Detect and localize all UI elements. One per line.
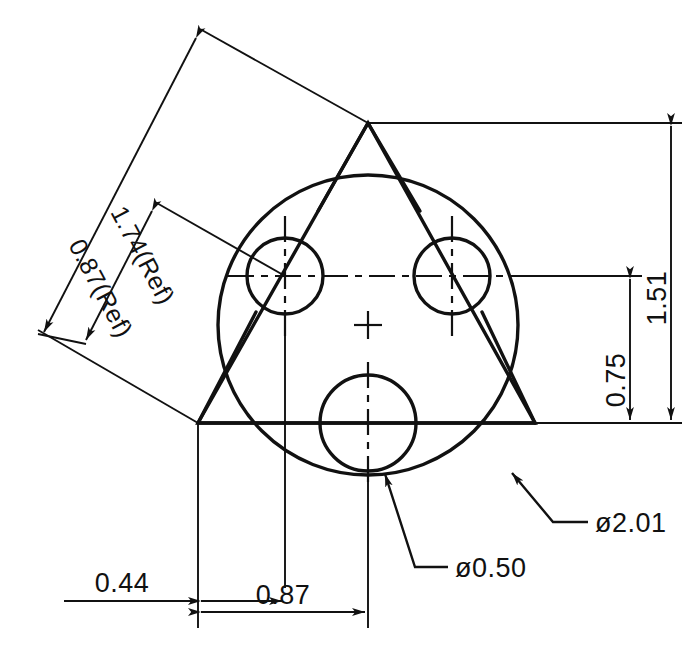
ext-line-ref-long-bottom — [38, 330, 198, 423]
ext-line-ref-short-bottom — [38, 334, 86, 344]
leader-line-hole-diameter — [385, 474, 448, 567]
dim-text-0-87: 0.87 — [256, 580, 311, 610]
triangle-side-top-left-upper — [318, 123, 368, 211]
dim-text-1-51: 1.51 — [642, 271, 672, 326]
center-lines — [198, 216, 620, 484]
triangle-side-left-lower — [198, 312, 256, 423]
dim-text-plate-diameter: ø2.01 — [595, 508, 667, 538]
triangle-side-right-lower — [482, 312, 535, 423]
dim-text-0-44: 0.44 — [95, 568, 150, 598]
dim-text-hole-diameter: ø0.50 — [455, 553, 527, 583]
engineering-drawing-svg: 1.74(Ref) 0.87(Ref) 1.51 0.75 0.44 0.87 … — [0, 0, 699, 667]
leader-line-plate-diameter — [512, 473, 588, 522]
horizontal-dimensions — [64, 601, 365, 612]
technical-drawing-canvas: 1.74(Ref) 0.87(Ref) 1.51 0.75 0.44 0.87 … — [0, 0, 699, 667]
triangle-side-top-right-upper — [368, 123, 420, 211]
dim-text-0-75: 0.75 — [601, 353, 631, 408]
ext-line-ref-short-top — [155, 202, 285, 276]
diagonal-reference-dimensions — [38, 29, 368, 423]
ext-line-ref-long-top — [200, 29, 368, 123]
